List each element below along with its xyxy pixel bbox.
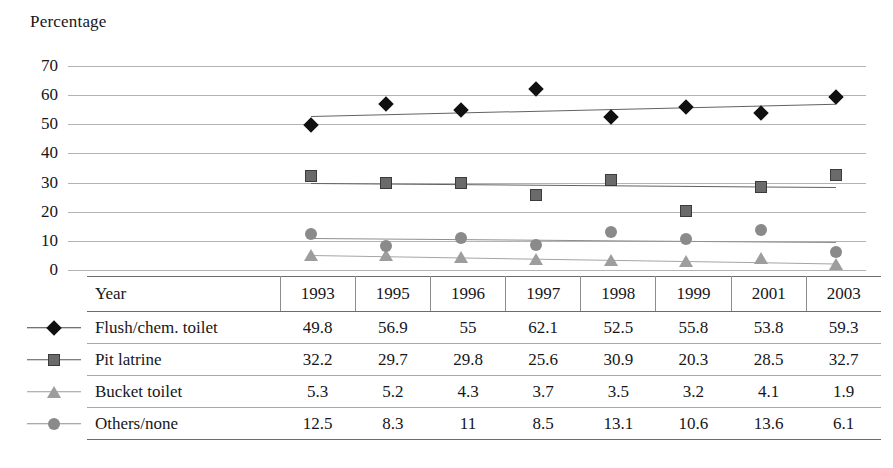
y-axis-tick-label: 50 (41, 114, 58, 134)
data-point-circle (755, 224, 767, 236)
data-point-square (680, 205, 692, 217)
data-point-diamond (453, 102, 469, 118)
cell-value: 1.9 (806, 376, 881, 408)
cell-value: 52.5 (581, 312, 656, 344)
table-row: Pit latrine 32.2 29.7 29.8 25.6 30.9 20.… (25, 344, 881, 376)
header-year-1996: 1996 (430, 277, 505, 312)
legend-key-flush (25, 312, 87, 344)
header-year-1993: 1993 (280, 277, 355, 312)
data-point-square (455, 177, 467, 189)
cell-value: 13.1 (581, 408, 656, 440)
cell-value: 55 (430, 312, 505, 344)
cell-value: 3.2 (656, 376, 731, 408)
y-axis-tick-label: 20 (41, 202, 58, 222)
data-point-triangle (829, 258, 843, 270)
cell-value: 13.6 (731, 408, 806, 440)
data-point-diamond (303, 117, 319, 133)
y-axis-tick-label: 10 (41, 231, 58, 251)
cell-value: 4.3 (430, 376, 505, 408)
series-label: Flush/chem. toilet (87, 312, 280, 344)
table-row: Others/none 12.5 8.3 11 8.5 13.1 10.6 13… (25, 408, 881, 440)
gridline (68, 153, 866, 154)
cell-value: 32.7 (806, 344, 881, 376)
data-point-circle (830, 246, 842, 258)
cell-value: 12.5 (280, 408, 355, 440)
data-point-circle (305, 228, 317, 240)
cell-value: 20.3 (656, 344, 731, 376)
y-axis-title: Percentage (30, 12, 107, 32)
cell-value: 59.3 (806, 312, 881, 344)
header-year-1995: 1995 (355, 277, 430, 312)
data-point-square (305, 170, 317, 182)
square-marker-icon (25, 350, 83, 370)
data-point-circle (605, 226, 617, 238)
table-header-row: Year 1993 1995 1996 1997 1998 1999 2001 … (25, 277, 881, 312)
data-point-diamond (828, 89, 844, 105)
header-year-1999: 1999 (656, 277, 731, 312)
data-point-triangle (604, 254, 618, 266)
cell-value: 8.5 (506, 408, 581, 440)
data-point-triangle (454, 251, 468, 263)
gridline (68, 124, 866, 125)
circle-marker-icon (25, 414, 83, 434)
header-year-label: Year (87, 277, 280, 312)
cell-value: 30.9 (581, 344, 656, 376)
cell-value: 25.6 (506, 344, 581, 376)
cell-value: 10.6 (656, 408, 731, 440)
cell-value: 49.8 (280, 312, 355, 344)
cell-value: 53.8 (731, 312, 806, 344)
cell-value: 3.7 (506, 376, 581, 408)
data-point-square (605, 174, 617, 186)
data-table: Year 1993 1995 1996 1997 1998 1999 2001 … (25, 276, 881, 440)
y-axis-tick-label: 40 (41, 143, 58, 163)
cell-value: 5.3 (280, 376, 355, 408)
data-point-triangle (754, 252, 768, 264)
y-axis-tick-label: 30 (41, 173, 58, 193)
cell-value: 4.1 (731, 376, 806, 408)
cell-value: 32.2 (280, 344, 355, 376)
data-point-diamond (678, 100, 694, 116)
data-point-circle (530, 239, 542, 251)
legend-key-bucket (25, 376, 87, 408)
data-point-diamond (753, 105, 769, 121)
data-point-square (380, 177, 392, 189)
cell-value: 6.1 (806, 408, 881, 440)
cell-value: 29.8 (430, 344, 505, 376)
data-point-square (530, 189, 542, 201)
cell-value: 55.8 (656, 312, 731, 344)
cell-value: 62.1 (506, 312, 581, 344)
header-key-cell (25, 277, 87, 312)
data-point-circle (455, 232, 467, 244)
y-axis-tick-label: 70 (41, 56, 58, 76)
gridline (68, 66, 866, 67)
header-year-1998: 1998 (581, 277, 656, 312)
y-axis-tick-label: 60 (41, 85, 58, 105)
table-row: Bucket toilet 5.3 5.2 4.3 3.7 3.5 3.2 4.… (25, 376, 881, 408)
plot-area: 706050403020100 (68, 66, 866, 270)
series-label: Others/none (87, 408, 280, 440)
header-year-2001: 2001 (731, 277, 806, 312)
legend-key-pit (25, 344, 87, 376)
data-point-circle (680, 233, 692, 245)
legend-key-others (25, 408, 87, 440)
cell-value: 8.3 (355, 408, 430, 440)
table-row: Flush/chem. toilet 49.8 56.9 55 62.1 52.… (25, 312, 881, 344)
header-year-2003: 2003 (806, 277, 881, 312)
series-label: Pit latrine (87, 344, 280, 376)
header-year-1997: 1997 (506, 277, 581, 312)
data-point-square (755, 181, 767, 193)
data-point-triangle (529, 253, 543, 265)
data-point-diamond (603, 109, 619, 125)
gridline (68, 212, 866, 213)
series-label: Bucket toilet (87, 376, 280, 408)
cell-value: 56.9 (355, 312, 430, 344)
triangle-marker-icon (25, 382, 83, 402)
cell-value: 11 (430, 408, 505, 440)
cell-value: 5.2 (355, 376, 430, 408)
gridline (68, 95, 866, 96)
cell-value: 3.5 (581, 376, 656, 408)
chart-figure: Percentage 706050403020100 Year 1993 199… (0, 0, 893, 468)
data-point-diamond (378, 96, 394, 112)
data-point-triangle (304, 249, 318, 261)
data-point-triangle (679, 255, 693, 267)
